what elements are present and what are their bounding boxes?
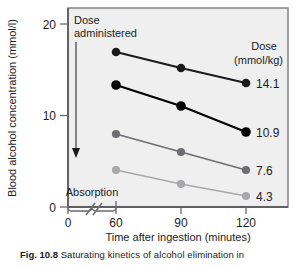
data-point (177, 180, 185, 188)
dose-administered-label-line1: Dose (74, 14, 100, 26)
x-tick-label-120: 120 (236, 216, 256, 230)
y-axis-title: Blood alcohol concentration (mmol/l) (6, 19, 18, 197)
x-tick-label-90: 90 (174, 216, 188, 230)
legend-value-4-3: 4.3 (256, 190, 273, 204)
legend-title-line2: (mmol/kg) (234, 54, 283, 66)
figure-caption: Fig. 10.8 Saturating kinetics of alcohol… (20, 249, 300, 260)
legend-title-line1: Dose (251, 40, 277, 52)
data-point (177, 64, 186, 73)
data-point (176, 101, 186, 111)
absorption-annotation-label: Absorption (66, 186, 119, 198)
figure-caption-text: Saturating kinetics of alcohol eliminati… (61, 249, 245, 260)
data-point (112, 48, 121, 57)
figure-number: Fig. 10.8 (20, 249, 58, 260)
x-axis-title: Time after ingestion (minutes) (105, 231, 250, 243)
data-point (242, 79, 251, 88)
x-tick-label-60: 60 (109, 216, 123, 230)
data-point (242, 192, 250, 200)
y-tick-label-20: 20 (43, 18, 57, 32)
legend-value-7-6: 7.6 (256, 164, 273, 178)
dose-administered-label-line2: administered (74, 27, 137, 39)
alcohol-elimination-line-chart: 20 10 0 Blood alcohol concentration (mmo… (0, 0, 306, 244)
legend-value-14-1: 14.1 (256, 77, 280, 91)
data-point (242, 166, 250, 174)
legend-value-10-9: 10.9 (256, 126, 280, 140)
figure-container: 20 10 0 Blood alcohol concentration (mmo… (0, 0, 306, 266)
data-point (112, 130, 120, 138)
data-point (112, 166, 120, 174)
y-tick-label-0: 0 (49, 201, 56, 215)
data-point (241, 127, 251, 137)
x-tick-label-0: 0 (65, 216, 72, 230)
data-point (177, 148, 185, 156)
data-point (111, 80, 121, 90)
y-tick-label-10: 10 (43, 109, 57, 123)
